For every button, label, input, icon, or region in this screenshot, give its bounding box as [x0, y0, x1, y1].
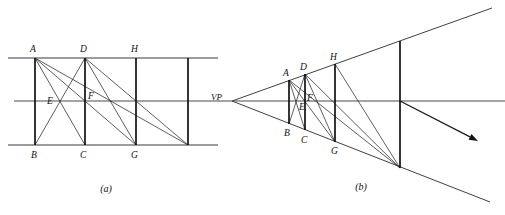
panel-b-top-receding-line — [232, 8, 492, 101]
panel-b-labels: ADHEFBCG — [282, 52, 338, 156]
label-F: F — [87, 91, 94, 101]
label-H: H — [329, 52, 338, 62]
arrow-head-icon — [469, 134, 478, 141]
panel-b-posts — [289, 41, 400, 168]
label-C: C — [80, 150, 87, 160]
panel-b-caption: (b) — [355, 181, 367, 193]
label-B: B — [284, 128, 290, 138]
panel-b-group: ADHEFBCG VP (b) — [211, 8, 505, 202]
label-E: E — [46, 96, 53, 106]
direction-arrow — [400, 101, 478, 141]
label-F: F — [306, 93, 313, 103]
label-D: D — [79, 44, 87, 54]
diag-H-bottom4 — [335, 64, 400, 168]
label-A: A — [29, 44, 36, 54]
label-G: G — [131, 150, 138, 160]
perspective-figure: ADHEFBCG (a) ADHEFBCG VP (b) — [0, 0, 505, 215]
label-B: B — [31, 150, 37, 160]
label-C: C — [301, 135, 308, 145]
vanishing-point-label: VP — [211, 92, 222, 102]
label-D: D — [299, 62, 307, 72]
panel-a-caption: (a) — [100, 183, 112, 195]
label-H: H — [130, 44, 139, 54]
arrow-shaft — [400, 101, 470, 137]
label-G: G — [331, 146, 338, 156]
label-A: A — [282, 68, 289, 78]
label-E: E — [298, 102, 305, 112]
figure-canvas: ADHEFBCG (a) ADHEFBCG VP (b) — [0, 0, 505, 215]
panel-a-group: ADHEFBCG (a) — [8, 44, 232, 195]
